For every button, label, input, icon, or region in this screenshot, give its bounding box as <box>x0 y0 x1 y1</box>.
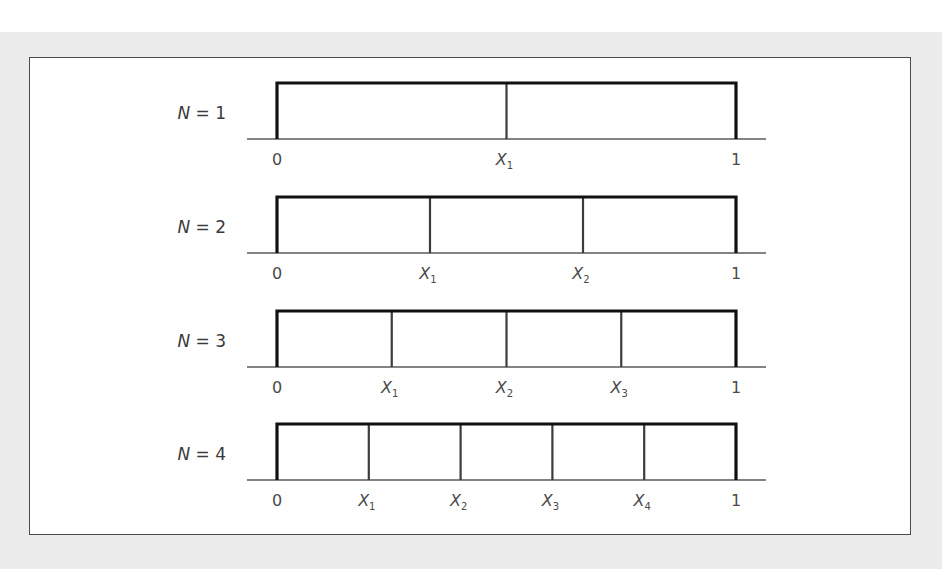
interval-frame <box>277 197 736 253</box>
tick-label: X3 <box>541 491 559 512</box>
n-label: N = 4 <box>177 444 226 464</box>
tick-label: 0 <box>272 491 282 510</box>
n-label: N = 3 <box>177 331 226 351</box>
equal-spacing-diagram: N = 10X11N = 20X1X21N = 30X1X2X31N = 40X… <box>0 0 948 575</box>
interval-frame <box>277 424 736 480</box>
tick-label: 0 <box>272 264 282 283</box>
tick-label: X1 <box>495 150 513 171</box>
tick-label: X2 <box>495 378 513 399</box>
tick-label: X1 <box>418 264 436 285</box>
tick-label: X1 <box>357 491 375 512</box>
row-n-3: N = 30X1X2X31 <box>177 311 766 399</box>
tick-label: X2 <box>449 491 467 512</box>
row-n-1: N = 10X11 <box>177 83 766 171</box>
tick-label: 1 <box>731 491 741 510</box>
n-label: N = 2 <box>177 217 226 237</box>
row-n-4: N = 40X1X2X3X41 <box>177 424 766 512</box>
tick-label: X4 <box>633 491 651 512</box>
tick-label: X1 <box>380 378 398 399</box>
row-n-2: N = 20X1X21 <box>177 197 766 285</box>
tick-label: 1 <box>731 378 741 397</box>
tick-label: 1 <box>731 264 741 283</box>
tick-label: 0 <box>272 378 282 397</box>
tick-label: 1 <box>731 150 741 169</box>
tick-label: 0 <box>272 150 282 169</box>
n-label: N = 1 <box>177 103 226 123</box>
tick-label: X2 <box>571 264 589 285</box>
tick-label: X3 <box>610 378 628 399</box>
